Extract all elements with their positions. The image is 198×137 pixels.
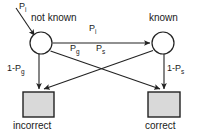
state-node-not-known [30, 32, 52, 54]
edge-label-not-slip-subscript: s [181, 68, 184, 75]
diagram-canvas: Pi not known known Pi Pg Ps 1-Pg 1-Ps in… [0, 0, 198, 137]
edge-label-transition-probability: Pi [89, 24, 96, 33]
edge-label-input-probability: Pi [19, 2, 26, 11]
state-node-known [152, 32, 174, 54]
state-label-known: known [149, 13, 178, 23]
edge-label-not-guess-subscript: g [21, 68, 25, 75]
outcome-node-correct [148, 92, 180, 117]
edge-label-slip-subscript: s [102, 48, 105, 55]
outcome-label-incorrect: incorrect [13, 121, 51, 131]
edge-known-to-incorrect [44, 51, 153, 90]
edge-label-guess-probability: Pg [70, 44, 80, 53]
edge-label-not-guess-probability: 1-Pg [7, 64, 25, 73]
outcome-label-correct: correct [145, 121, 176, 131]
outcome-node-incorrect [23, 92, 54, 117]
state-label-not-known: not known [31, 13, 77, 23]
edge-not-known-to-correct [51, 51, 161, 89]
edge-label-not-slip-base: 1-P [167, 63, 181, 73]
edge-label-not-guess-base: 1-P [7, 63, 21, 73]
edge-label-guess-subscript: g [76, 48, 80, 55]
edge-label-slip-probability: Ps [96, 44, 105, 53]
edge-label-not-slip-probability: 1-Ps [167, 64, 184, 73]
